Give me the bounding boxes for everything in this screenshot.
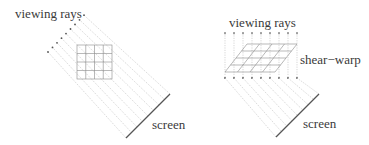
left-screen-label: screen	[152, 118, 185, 131]
right-viewing-rays-label: viewing rays	[229, 16, 296, 29]
right-vertical-rays	[225, 33, 297, 78]
left-viewing-rays-label: viewing rays	[15, 7, 82, 20]
right-top-arrowheads	[225, 32, 298, 34]
shear-warp-label: shear−warp	[300, 53, 361, 66]
left-volume-grid	[77, 45, 112, 79]
right-screen-label: screen	[303, 117, 336, 130]
